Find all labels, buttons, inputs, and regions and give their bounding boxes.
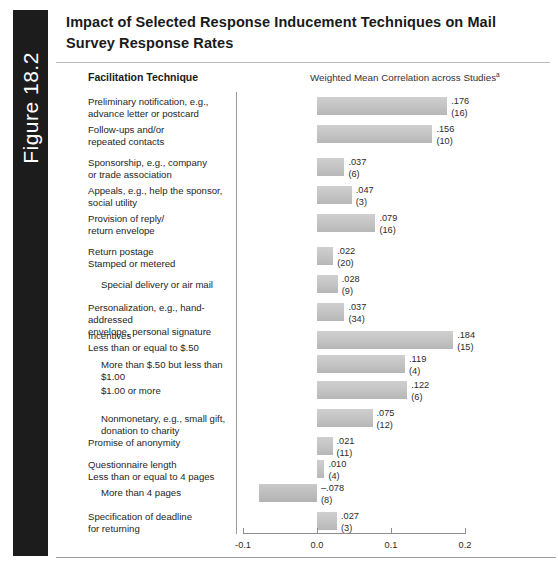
technique-label: Questionnaire length Less than or equal …	[88, 459, 230, 483]
technique-label: Follow-ups and/or repeated contacts	[88, 124, 230, 148]
bar	[317, 409, 373, 427]
bar-value-label: .184(15)	[457, 330, 475, 353]
technique-label: Specification of deadline for returning	[88, 511, 230, 535]
page-title: Impact of Selected Response Inducement T…	[66, 12, 546, 54]
bar-study-count: (10)	[436, 136, 454, 148]
bar-value: .079	[379, 213, 397, 225]
bar	[317, 460, 324, 478]
figure-number-label: Figure 18.2	[19, 52, 43, 164]
technique-label: Preliminary notification, e.g., advance …	[88, 96, 230, 120]
column-header-correlation-text: Weighted Mean Correlation across Studies	[310, 72, 496, 83]
bar-study-count: (6)	[348, 169, 366, 181]
bar-study-count: (11)	[337, 448, 355, 460]
bar-value-label: .047(3)	[356, 185, 374, 208]
bar-value: .037	[348, 157, 366, 169]
bar-value-label: .028(9)	[342, 274, 360, 297]
bar-study-count: (3)	[341, 523, 359, 535]
bar-study-count: (3)	[356, 197, 374, 209]
bar-value-label: .119(4)	[409, 354, 426, 377]
column-header-correlation: Weighted Mean Correlation across Studies…	[310, 71, 500, 83]
technique-label: $1.00 or more	[101, 385, 243, 397]
bar	[317, 158, 344, 176]
bar-rows-container: Preliminary notification, e.g., advance …	[0, 0, 558, 568]
bar-value: .156	[436, 124, 454, 136]
bar	[317, 331, 453, 349]
bar-study-count: (8)	[321, 495, 344, 507]
technique-label: Return postage Stamped or metered	[88, 246, 230, 270]
x-axis-tick-label: 0.1	[385, 540, 398, 550]
x-axis-tick-label: -0.1	[235, 540, 251, 550]
bar-value-label: .122(6)	[411, 380, 429, 403]
bar-value: .022	[337, 246, 355, 258]
bar-value: .010	[328, 459, 346, 471]
bar	[317, 97, 447, 115]
technique-label: Promise of anonymity	[88, 437, 230, 449]
bar	[259, 484, 317, 502]
technique-label: Nonmonetary, e.g., small gift, donation …	[101, 413, 243, 437]
x-axis-tick-label: 0.2	[459, 540, 472, 550]
bar	[317, 125, 432, 143]
bar-value-label: .027(3)	[341, 511, 359, 534]
bar-value-label: .156(10)	[436, 124, 454, 147]
bar-value: –.078	[321, 483, 344, 495]
x-axis-tick	[391, 528, 392, 534]
bottom-divider	[56, 557, 556, 558]
bar-value-label: .037(6)	[348, 157, 366, 180]
bar-study-count: (16)	[379, 225, 397, 237]
bar-study-count: (34)	[348, 314, 366, 326]
bar-study-count: (20)	[337, 258, 355, 270]
bar-value-label: .021(11)	[337, 436, 355, 459]
bar	[317, 214, 375, 232]
bar-value: .047	[356, 185, 374, 197]
technique-label: Special delivery or air mail	[101, 279, 243, 291]
figure-page: Figure 18.2 Impact of Selected Response …	[0, 0, 558, 568]
x-axis-tick-label: 0.0	[311, 540, 324, 550]
bar	[317, 275, 338, 293]
technique-label: Sponsorship, e.g., company or trade asso…	[88, 157, 230, 181]
chart-canvas: Preliminary notification, e.g., advance …	[0, 0, 558, 568]
bar	[317, 437, 333, 455]
bar	[317, 355, 405, 373]
bar-study-count: (4)	[409, 366, 426, 378]
bar	[317, 381, 407, 399]
x-axis-tick	[465, 528, 466, 534]
bar-value-label: .022(20)	[337, 246, 355, 269]
bar	[317, 247, 333, 265]
bar	[317, 512, 337, 530]
x-axis-line	[243, 533, 465, 534]
technique-label: Personalization, e.g., hand-addressed en…	[88, 302, 230, 339]
bar-study-count: (12)	[377, 420, 395, 432]
bar-value-label: .037(34)	[348, 302, 366, 325]
bar-value-label: .176(16)	[451, 96, 469, 119]
x-axis-tick	[317, 528, 318, 534]
bar	[317, 186, 352, 204]
bar-study-count: (4)	[328, 471, 346, 483]
bar-value-label: –.078(8)	[321, 483, 344, 506]
bar-value: .021	[337, 436, 355, 448]
x-axis-tick	[243, 528, 244, 534]
bar-value: .075	[377, 408, 395, 420]
bar-value-label: .010(4)	[328, 459, 346, 482]
bar-value: .184	[457, 330, 475, 342]
figure-number-tab: Figure 18.2	[13, 10, 48, 556]
technique-label: More than 4 pages	[101, 487, 243, 499]
technique-label: Appeals, e.g., help the sponsor, social …	[88, 185, 230, 209]
bar-study-count: (6)	[411, 392, 429, 404]
bar-value: .119	[409, 354, 426, 366]
footnote-marker: a	[496, 71, 500, 78]
bar-value: .037	[348, 302, 366, 314]
technique-label: More than $.50 but less than $1.00	[101, 359, 243, 383]
bar	[317, 303, 344, 321]
figure-title-block: Impact of Selected Response Inducement T…	[66, 12, 546, 54]
bar-study-count: (16)	[451, 108, 469, 120]
bar-value-label: .079(16)	[379, 213, 397, 236]
title-divider	[56, 62, 550, 63]
bar-value-label: .075(12)	[377, 408, 395, 431]
column-header-technique: Facilitation Technique	[88, 71, 198, 83]
bar-value: .028	[342, 274, 360, 286]
bar-study-count: (9)	[342, 286, 360, 298]
bar-value: .027	[341, 511, 359, 523]
technique-label: Incentives Less than or equal to $.50	[88, 330, 230, 354]
bar-value: .176	[451, 96, 469, 108]
technique-label: Provision of reply/ return envelope	[88, 213, 230, 237]
